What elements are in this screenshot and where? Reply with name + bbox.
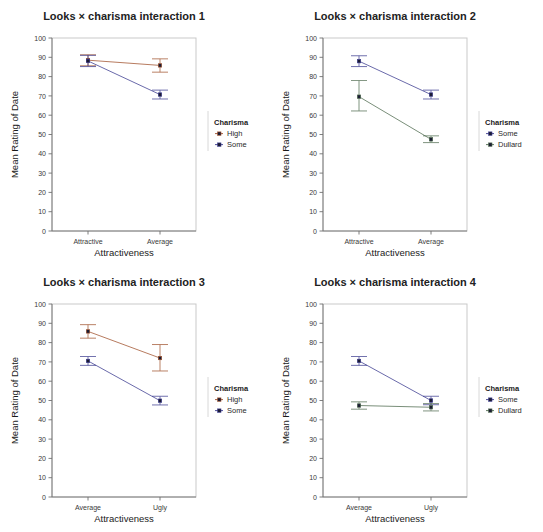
x-tick-label: Average [147,238,173,246]
y-tick-label: 90 [38,54,46,61]
legend-marker-icon [215,409,223,412]
y-tick-label: 100 [305,301,317,308]
legend-item-label: Dullard [498,406,522,415]
legend: CharismaHighSome [208,111,249,151]
legend-marker-icon [486,132,494,135]
data-point-marker [86,359,89,362]
legend-item-label: Some [227,406,247,415]
legend-marker-icon [215,143,223,146]
y-tick-label: 20 [309,189,317,196]
y-tick-label: 100 [34,35,46,42]
plot-frame [52,304,196,497]
legend-item-some[interactable]: Some [215,406,247,415]
data-point-marker [158,399,161,402]
x-axis-title: Attractiveness [365,513,425,524]
legend-title: Charisma [214,384,249,393]
y-tick-label: 10 [309,474,317,481]
y-axis-title: Mean Rating of Date [280,357,291,444]
data-point-marker [86,330,89,333]
legend-item-high[interactable]: High [215,129,242,138]
legend-title: Charisma [214,118,249,127]
data-point-marker [429,406,432,409]
y-tick-label: 10 [38,208,46,215]
panel-title: Looks × charisma interaction 3 [43,276,205,288]
legend-item-dullard[interactable]: Dullard [486,140,522,149]
y-tick-label: 80 [309,339,317,346]
y-tick-label: 70 [38,93,46,100]
legend-item-some[interactable]: Some [486,129,518,138]
y-tick-label: 20 [38,455,46,462]
legend-item-dullard[interactable]: Dullard [486,406,522,415]
data-point-marker [429,399,432,402]
data-point-marker [357,59,360,62]
legend-item-some[interactable]: Some [486,395,518,404]
legend-marker-icon [486,409,494,412]
y-tick-label: 70 [309,93,317,100]
y-tick-label: 60 [309,112,317,119]
y-tick-label: 10 [38,474,46,481]
y-tick-label: 50 [38,397,46,404]
y-tick-label: 70 [309,359,317,366]
chart-panel-3: Looks × charisma interaction 30102030405… [0,266,271,532]
x-tick-label: Attractive [344,238,373,245]
y-tick-label: 30 [309,436,317,443]
y-tick-label: 0 [313,494,317,501]
y-tick-label: 40 [38,416,46,423]
y-axis-title: Mean Rating of Date [9,357,20,444]
legend-item-label: Dullard [498,140,522,149]
y-tick-label: 60 [38,378,46,385]
x-axis-title: Attractiveness [365,247,425,258]
y-tick-label: 70 [38,359,46,366]
y-tick-label: 80 [38,73,46,80]
legend-item-label: High [227,129,242,138]
chart-panel-4: Looks × charisma interaction 40102030405… [271,266,542,532]
y-tick-label: 40 [309,416,317,423]
data-point-marker [357,359,360,362]
legend-marker-icon [215,132,223,135]
y-tick-label: 30 [38,170,46,177]
data-point-marker [429,138,432,141]
y-tick-label: 90 [309,320,317,327]
y-tick-label: 20 [309,455,317,462]
chart-panel-1: Looks × charisma interaction 10102030405… [0,0,271,266]
plot-frame [323,38,467,231]
data-point-marker [158,93,161,96]
legend-title: Charisma [485,118,520,127]
chart-svg-3: Looks × charisma interaction 30102030405… [0,266,271,532]
data-point-marker [357,95,360,98]
x-axis-title: Attractiveness [94,247,154,258]
y-tick-label: 30 [38,436,46,443]
data-point-marker [429,93,432,96]
chart-svg-4: Looks × charisma interaction 40102030405… [271,266,542,532]
y-tick-label: 10 [309,208,317,215]
legend-item-high[interactable]: High [215,395,242,404]
y-tick-label: 60 [38,112,46,119]
legend-item-some[interactable]: Some [215,140,247,149]
legend-marker-icon [215,398,223,401]
legend-item-label: Some [227,140,247,149]
chart-svg-2: Looks × charisma interaction 20102030405… [271,0,542,266]
x-tick-label: Ugly [424,504,439,512]
x-axis-title: Attractiveness [94,513,154,524]
y-tick-label: 80 [309,73,317,80]
y-axis-title: Mean Rating of Date [280,91,291,178]
y-tick-label: 60 [309,378,317,385]
y-tick-label: 0 [313,228,317,235]
y-tick-label: 80 [38,339,46,346]
y-tick-label: 100 [34,301,46,308]
panel-title: Looks × charisma interaction 1 [43,10,205,22]
y-tick-label: 100 [305,35,317,42]
y-tick-label: 50 [309,397,317,404]
y-tick-label: 90 [38,320,46,327]
legend-item-label: Some [498,395,518,404]
data-point-marker [86,59,89,62]
y-axis-title: Mean Rating of Date [9,91,20,178]
x-tick-label: Average [418,238,444,246]
y-tick-label: 30 [309,170,317,177]
panel-title: Looks × charisma interaction 4 [314,276,477,288]
y-tick-label: 20 [38,189,46,196]
x-tick-label: Ugly [153,504,168,512]
plot-frame [323,304,467,497]
panel-title: Looks × charisma interaction 2 [314,10,476,22]
data-point-marker [158,356,161,359]
